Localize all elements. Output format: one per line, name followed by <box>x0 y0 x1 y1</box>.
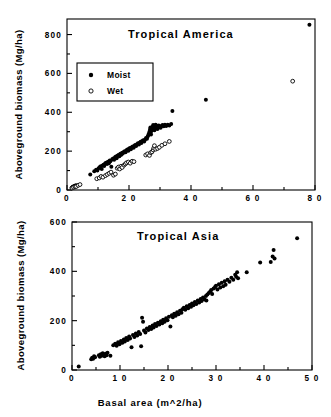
data-point-filled <box>169 122 173 126</box>
data-point-open <box>291 79 295 83</box>
x-tick-label: 0 <box>64 194 70 203</box>
y-axis-label-asia: Aboveground biomass (Mg/ha) <box>15 202 26 390</box>
x-tick-label: 8 0 <box>308 194 323 203</box>
x-tick-label: 4 0 <box>257 374 272 383</box>
data-point-open <box>132 160 136 164</box>
panel-tropical-america: Aboveground biomass (Mg/ha) Tropical Ame… <box>0 0 331 205</box>
y-tick-label: 400 <box>45 108 62 117</box>
data-point-filled <box>235 270 239 274</box>
data-point-open <box>78 183 82 187</box>
y-tick-label: 200 <box>50 317 67 326</box>
data-point-filled <box>138 332 142 336</box>
y-tick-label: 0 <box>56 186 62 195</box>
panel-title-asia: Tropical Asia <box>137 230 219 242</box>
x-tick-label: 2 0 <box>122 194 137 203</box>
data-point-filled <box>128 336 132 340</box>
data-point-filled <box>166 318 170 322</box>
legend-marker-wet <box>89 89 93 93</box>
data-point-filled <box>170 109 174 113</box>
x-tick-label: 5 0 <box>305 374 320 383</box>
axes-frame <box>72 222 312 370</box>
data-point-filled <box>140 316 144 320</box>
data-point-filled <box>245 270 249 274</box>
data-point-open <box>167 140 171 144</box>
data-point-filled <box>273 257 277 261</box>
series-moist <box>70 23 312 190</box>
data-point-filled <box>100 167 104 171</box>
x-tick-label: 4 0 <box>184 194 199 203</box>
y-tick-label: 800 <box>45 31 62 40</box>
y-tick-label: 400 <box>50 267 67 276</box>
data-point-filled <box>139 344 143 348</box>
legend-marker-moist <box>89 73 93 77</box>
data-point-filled <box>108 354 112 358</box>
series-asia <box>77 236 299 368</box>
y-tick-label: 600 <box>50 218 67 227</box>
data-point-filled <box>269 260 273 264</box>
data-point-filled <box>149 132 153 136</box>
data-point-filled <box>106 351 110 355</box>
y-axis-label-america: Aboveground biomass (Mg/ha) <box>13 4 24 205</box>
data-point-filled <box>204 98 208 102</box>
data-point-filled <box>272 248 276 252</box>
data-point-filled <box>179 311 183 315</box>
data-point-filled <box>77 365 81 369</box>
legend: MoistWet <box>77 63 153 101</box>
x-tick-label: 6 0 <box>246 194 261 203</box>
x-tick-label: 2 0 <box>161 374 176 383</box>
data-point-filled <box>258 260 262 264</box>
x-tick-label: 0 <box>69 374 75 383</box>
x-tick-label: 1 0 <box>113 374 128 383</box>
data-point-filled <box>204 298 208 302</box>
x-tick-label: 3 0 <box>209 374 224 383</box>
figure-two-panel-scatter: Aboveground biomass (Mg/ha) Tropical Ame… <box>0 0 331 417</box>
y-tick-label: 0 <box>61 366 67 375</box>
legend-label-wet: Wet <box>107 86 123 96</box>
legend-label-moist: Moist <box>107 70 131 80</box>
data-point-filled <box>307 23 311 27</box>
data-point-filled <box>109 165 113 169</box>
x-axis-label: Basal area (m^2/ha) <box>30 397 270 408</box>
data-point-open <box>113 172 117 176</box>
data-point-filled <box>227 280 231 284</box>
data-point-filled <box>210 292 214 296</box>
data-point-filled <box>141 320 145 324</box>
data-point-filled <box>236 276 240 280</box>
data-point-open <box>163 142 167 146</box>
data-point-filled <box>130 345 134 349</box>
data-point-filled <box>295 236 299 240</box>
data-point-filled <box>168 325 172 329</box>
y-tick-label: 200 <box>45 147 62 156</box>
data-point-filled <box>93 355 97 359</box>
panel-title-america: Tropical America <box>128 28 234 40</box>
y-tick-label: 600 <box>45 69 62 78</box>
data-point-filled <box>224 283 228 287</box>
panel-tropical-asia: Aboveground biomass (Mg/ha) Tropical Asi… <box>0 205 331 417</box>
data-point-filled <box>231 278 235 282</box>
data-point-filled <box>88 172 92 176</box>
